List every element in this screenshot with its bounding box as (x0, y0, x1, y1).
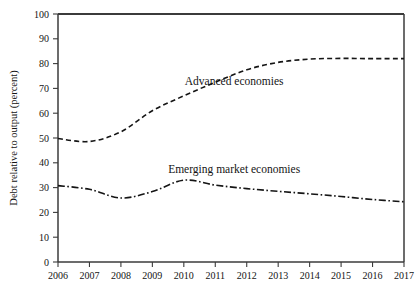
chart-background (0, 0, 420, 296)
series-label-advanced-economies: Advanced economies (185, 75, 284, 87)
x-tick-label: 2012 (237, 270, 257, 281)
y-tick-label: 0 (44, 257, 49, 268)
chart-figure: 0102030405060708090100 20062007200820092… (0, 0, 420, 296)
y-tick-label: 80 (39, 58, 49, 69)
y-axis-title: Debt relative to output (percent) (8, 70, 20, 206)
y-tick-label: 90 (39, 33, 49, 44)
y-tick-label: 70 (39, 83, 49, 94)
x-tick-label: 2013 (268, 270, 288, 281)
y-tick-label: 20 (39, 207, 49, 218)
x-tick-label: 2011 (205, 270, 225, 281)
x-tick-label: 2006 (48, 270, 68, 281)
x-tick-label: 2008 (111, 270, 131, 281)
x-tick-label: 2017 (394, 270, 414, 281)
x-tick-label: 2015 (331, 270, 351, 281)
y-tick-label: 50 (39, 133, 49, 144)
y-tick-label: 40 (39, 157, 49, 168)
y-tick-label: 60 (39, 108, 49, 119)
debt-to-output-line-chart: 0102030405060708090100 20062007200820092… (0, 0, 420, 296)
x-tick-label: 2010 (174, 270, 194, 281)
y-tick-label: 100 (34, 9, 49, 20)
series-label-emerging-market-economies: Emerging market economies (168, 163, 301, 176)
x-tick-label: 2016 (363, 270, 383, 281)
x-tick-label: 2009 (142, 270, 162, 281)
y-tick-label: 30 (39, 182, 49, 193)
x-tick-label: 2014 (300, 270, 320, 281)
y-tick-label: 10 (39, 232, 49, 243)
x-tick-label: 2007 (79, 270, 99, 281)
